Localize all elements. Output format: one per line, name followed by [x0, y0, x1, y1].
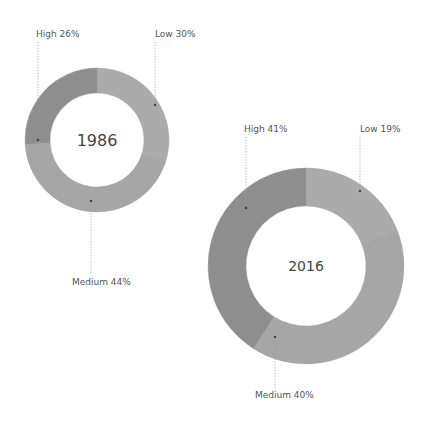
donut-chart-2016: 2016Low 19%Medium 40%High 41%	[208, 124, 404, 400]
callout-label-low: Low 19%	[360, 124, 401, 134]
donut-chart-1986: 1986Low 30%Medium 44%High 26%	[25, 29, 196, 287]
year-label: 1986	[77, 131, 118, 150]
donut-charts-comparison: 1986Low 30%Medium 44%High 26% 2016Low 19…	[0, 0, 428, 428]
segment-low	[306, 168, 397, 244]
callout-label-low: Low 30%	[155, 29, 196, 39]
callout-dot	[154, 104, 156, 106]
callout-dot	[359, 190, 361, 192]
callout-dot	[37, 139, 39, 141]
segment-medium	[253, 230, 404, 364]
callout-label-medium: Medium 40%	[255, 390, 314, 400]
callout-dot	[90, 200, 92, 202]
callout-dot	[274, 336, 276, 338]
callout-dot	[245, 207, 247, 209]
callout-label-high: High 41%	[244, 124, 288, 134]
year-label: 2016	[288, 258, 324, 274]
callout-label-medium: Medium 44%	[72, 277, 131, 287]
callout-label-high: High 26%	[36, 29, 80, 39]
